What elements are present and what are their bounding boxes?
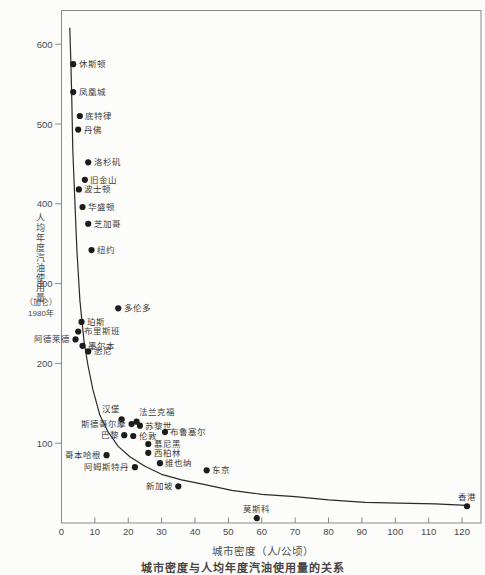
y-axis-title-char: 使 [31, 273, 49, 283]
data-point [72, 336, 78, 342]
data-point [85, 221, 91, 227]
data-point-label: 新加坡 [146, 481, 173, 491]
y-tick-label: 100 [37, 438, 53, 449]
data-point-label: 法兰克福 [139, 407, 175, 417]
y-axis-title-char: 均 [31, 223, 49, 233]
data-point-label: 阿姆斯特丹 [84, 462, 129, 472]
trend-curve [70, 28, 467, 505]
data-point-label: 丹佛 [84, 125, 102, 135]
data-point [75, 126, 81, 132]
data-point [145, 441, 151, 447]
data-point-label: 休斯顿 [79, 59, 106, 69]
data-point-label: 苏黎世 [145, 421, 172, 431]
data-point [121, 432, 127, 438]
data-point-label: 凤凰城 [79, 87, 106, 97]
data-point [88, 247, 94, 253]
plot-frame [62, 11, 482, 524]
data-point-label: 纽约 [97, 245, 115, 255]
y-axis-title-char: 度 [31, 243, 49, 253]
data-point-label: 底特律 [85, 111, 112, 121]
data-point [137, 423, 143, 429]
data-point-label: 旧金山 [90, 175, 117, 185]
data-point [82, 177, 88, 183]
data-point [75, 328, 81, 334]
data-point-label: 悉尼 [94, 346, 112, 356]
data-point-label: 阿德莱德 [34, 334, 70, 344]
data-point [175, 483, 181, 489]
x-tick-label: 70 [290, 526, 301, 537]
y-axis-title-char: 年 [31, 233, 49, 243]
data-point-label: 珀斯 [87, 317, 105, 327]
y-tick-label: 200 [37, 358, 53, 369]
y-tick-label: 400 [37, 198, 53, 209]
y-axis-year: 1980年 [26, 307, 56, 318]
data-point-label: 东京 [212, 465, 230, 475]
data-point-label: 莫斯科 [243, 504, 270, 514]
data-point-label: 洛杉矶 [94, 157, 121, 167]
data-point-label: 布鲁塞尔 [170, 427, 206, 437]
data-point-label: 多伦多 [124, 303, 151, 313]
x-tick-label: 90 [357, 526, 368, 537]
x-tick-label: 10 [90, 526, 101, 537]
data-point-label: 哥本哈根 [65, 450, 101, 460]
data-point [130, 433, 136, 439]
data-point-label: 巴黎 [101, 430, 119, 440]
data-point-label: 香港 [458, 492, 476, 502]
data-point [79, 343, 85, 349]
y-tick-label: 500 [37, 119, 53, 130]
data-point [77, 113, 83, 119]
data-point [128, 421, 134, 427]
data-point-label: 华盛顿 [88, 202, 115, 212]
data-point [70, 61, 76, 67]
x-tick-label: 80 [323, 526, 334, 537]
x-tick-label: 30 [156, 526, 167, 537]
y-axis-title-char: 用 [31, 283, 49, 293]
data-point [78, 319, 84, 325]
data-point [79, 204, 85, 210]
y-axis-title: 人均年度汽油使用量 [31, 213, 49, 303]
data-point [76, 186, 82, 192]
data-point [85, 159, 91, 165]
x-axis-title: 城市密度（人/公顷） [138, 543, 388, 558]
data-point [132, 464, 138, 470]
x-tick-label: 110 [421, 526, 436, 537]
x-tick-label: 20 [123, 526, 134, 537]
data-point-label: 波士顿 [84, 184, 111, 194]
data-point-label: 布里斯班 [84, 326, 120, 336]
y-axis-unit: （加仑） [24, 296, 58, 307]
data-point [115, 305, 121, 311]
figure-caption: 城市密度与人均年度汽油使用量的关系 [0, 559, 485, 575]
x-tick-label: 60 [256, 526, 267, 537]
data-point [162, 429, 168, 435]
data-point [70, 89, 76, 95]
data-point-label: 斯德哥尔摩 [81, 419, 126, 429]
x-tick-label: 0 [59, 526, 64, 537]
data-point [85, 348, 91, 354]
y-axis-title-char: 油 [31, 263, 49, 273]
x-tick-label: 100 [387, 526, 403, 537]
data-point [103, 452, 109, 458]
x-tick-label: 40 [190, 526, 201, 537]
data-point [204, 467, 210, 473]
data-point [254, 515, 260, 521]
y-axis-title-char: 人 [31, 213, 49, 223]
x-tick-label: 50 [223, 526, 234, 537]
y-axis-title-char: 汽 [31, 253, 49, 263]
data-point-label: 维也纳 [165, 458, 192, 468]
data-point [464, 503, 470, 509]
data-point [145, 450, 151, 456]
data-point-label: 西柏林 [154, 448, 181, 458]
data-point [157, 460, 163, 466]
x-tick-label: 120 [454, 526, 470, 537]
y-tick-label: 600 [37, 39, 53, 50]
data-point-label: 芝加哥 [94, 219, 121, 229]
data-point-label: 汉堡 [102, 404, 120, 414]
